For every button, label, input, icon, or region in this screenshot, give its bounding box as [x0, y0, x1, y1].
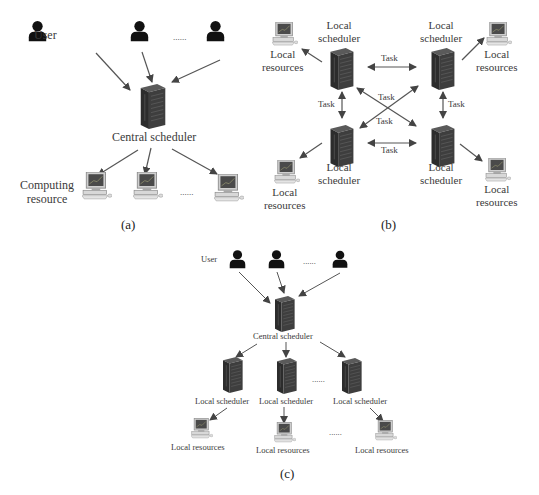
- computer-icon: [274, 422, 296, 442]
- user-icon: [207, 21, 224, 41]
- local-resources-label: Local resources: [262, 48, 304, 74]
- local-resources-label: Local resources: [256, 445, 310, 455]
- task-edge-label: Task: [381, 145, 398, 156]
- local-scheduler-icon: [277, 358, 297, 394]
- panel-c-graphics: [191, 250, 397, 442]
- central-scheduler-icon: [275, 296, 295, 332]
- caption-c: (c): [280, 466, 294, 482]
- computing-resource-label: Computing resource: [20, 178, 74, 206]
- user-icon: [230, 250, 246, 268]
- task-edge-label: Task: [381, 53, 398, 64]
- task-edge-label: Task: [448, 99, 465, 110]
- caption-a: (a): [121, 217, 135, 233]
- computer-icon: [214, 174, 244, 201]
- local-scheduler-label: Local scheduler: [420, 161, 462, 187]
- user-icon: [131, 21, 148, 41]
- local-scheduler-label: Local scheduler: [333, 396, 387, 406]
- task-edge-label: Task: [318, 99, 335, 110]
- local-scheduler-label: Local scheduler: [259, 396, 313, 406]
- local-scheduler-label: Local scheduler: [195, 396, 249, 406]
- panel-a-graphics: [29, 21, 244, 201]
- computer-icon: [485, 158, 511, 181]
- computer-icon: [272, 22, 298, 45]
- ellipsis: ......: [180, 187, 194, 198]
- computer-icon: [133, 172, 163, 199]
- ellipsis: ......: [173, 32, 187, 43]
- user-icon: [269, 250, 285, 268]
- computer-icon: [375, 420, 397, 440]
- ellipsis: ......: [312, 374, 325, 384]
- local-scheduler-icon: [331, 48, 354, 90]
- local-resources-label: Local resources: [171, 442, 225, 452]
- local-resources-label: Local resources: [476, 48, 518, 74]
- local-resources-label: Local resources: [476, 183, 518, 209]
- local-resources-label: Local resources: [355, 445, 409, 455]
- ellipsis: ......: [329, 427, 342, 437]
- task-edge-label: Task: [378, 92, 395, 103]
- task-edge-label: Task: [376, 116, 393, 127]
- diagram-graphics: [0, 0, 539, 495]
- local-scheduler-label: Local scheduler: [318, 161, 360, 187]
- computer-icon: [191, 418, 213, 438]
- local-scheduler-icon: [223, 357, 243, 393]
- user-icon: [333, 251, 348, 268]
- computer-icon: [82, 172, 112, 199]
- computer-icon: [274, 160, 300, 183]
- local-scheduler-icon: [342, 358, 362, 394]
- central-scheduler-label: Central scheduler: [253, 331, 313, 341]
- local-resources-label: Local resources: [264, 186, 306, 212]
- user-label: User: [201, 254, 217, 264]
- local-scheduler-icon: [432, 48, 455, 90]
- ellipsis: ......: [303, 256, 316, 266]
- computer-icon: [486, 22, 512, 45]
- caption-b: (b): [381, 217, 396, 233]
- user-label: User: [34, 28, 57, 42]
- central-scheduler-icon: [141, 84, 166, 129]
- central-scheduler-label: Central scheduler: [112, 130, 196, 144]
- figure-canvas: User ...... Central scheduler Computing …: [0, 0, 539, 495]
- local-scheduler-label: Local scheduler: [420, 19, 462, 45]
- local-scheduler-label: Local scheduler: [318, 19, 360, 45]
